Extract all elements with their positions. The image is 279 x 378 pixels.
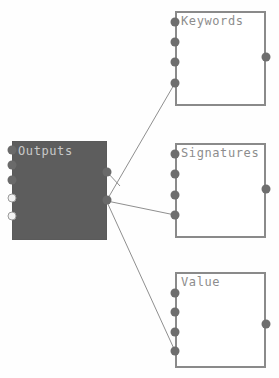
signatures-port-in-2[interactable]: [171, 170, 180, 179]
keywords-port-in-2[interactable]: [171, 38, 180, 47]
value-port-out-1[interactable]: [262, 320, 271, 329]
signatures-port-out-1[interactable]: [262, 185, 271, 194]
signatures-port-in-1[interactable]: [171, 150, 180, 159]
keywords-port-in-4[interactable]: [171, 79, 180, 88]
signatures-port-in-3[interactable]: [171, 191, 180, 200]
node-title-outputs: Outputs: [18, 144, 73, 158]
node-outputs[interactable]: Outputs: [12, 141, 107, 240]
keywords-port-in-1[interactable]: [171, 18, 180, 27]
node-signatures[interactable]: Signatures: [175, 143, 266, 238]
out-port-right-1[interactable]: [103, 168, 112, 177]
out-port-left-2[interactable]: [8, 161, 17, 170]
node-title-signatures: Signatures: [181, 146, 259, 160]
node-graph-canvas[interactable]: OutputsKeywordsSignaturesValue: [0, 0, 279, 378]
out-port-left-4[interactable]: [8, 194, 17, 203]
value-port-in-1[interactable]: [171, 289, 180, 298]
out-port-left-3[interactable]: [8, 176, 17, 185]
wire-outputs-to-value[interactable]: [107, 202, 175, 351]
out-port-left-1[interactable]: [8, 146, 17, 155]
node-title-value: Value: [181, 275, 220, 289]
out-port-right-2[interactable]: [103, 196, 112, 205]
node-keywords[interactable]: Keywords: [175, 11, 266, 106]
value-port-in-2[interactable]: [171, 308, 180, 317]
node-title-keywords: Keywords: [181, 14, 244, 28]
wire-outputs-to-keywords[interactable]: [107, 83, 175, 200]
value-port-in-4[interactable]: [171, 347, 180, 356]
keywords-port-in-3[interactable]: [171, 58, 180, 67]
value-port-in-3[interactable]: [171, 328, 180, 337]
node-value[interactable]: Value: [175, 272, 266, 368]
out-port-left-5[interactable]: [8, 212, 17, 221]
signatures-port-in-4[interactable]: [171, 211, 180, 220]
keywords-port-out-1[interactable]: [262, 53, 271, 62]
wire-outputs-to-signatures[interactable]: [107, 201, 175, 215]
